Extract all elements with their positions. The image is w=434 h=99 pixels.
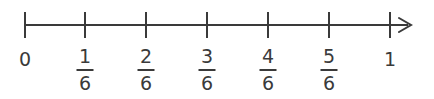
fraction-4-6-bar	[260, 69, 277, 71]
tick-label-2: 2 6	[138, 47, 155, 94]
fraction-2-6-denominator: 6	[138, 73, 155, 94]
fraction-3-6-numerator: 3	[199, 47, 216, 68]
fraction-4-6-numerator: 4	[260, 47, 277, 68]
fraction-1-6-denominator: 6	[77, 73, 94, 94]
tick-label-1: 1 6	[77, 47, 94, 94]
fraction-1-6: 1 6	[77, 47, 94, 94]
fraction-5-6-bar	[321, 69, 338, 71]
fraction-4-6: 4 6	[260, 47, 277, 94]
fraction-3-6-denominator: 6	[199, 73, 216, 94]
fraction-5-6-numerator: 5	[321, 47, 338, 68]
tick-label-4: 4 6	[260, 47, 277, 94]
fraction-3-6: 3 6	[199, 47, 216, 94]
fraction-3-6-bar	[199, 69, 216, 71]
tick-label-0: 0	[19, 50, 31, 69]
fraction-4-6-denominator: 6	[260, 73, 277, 94]
tick-label-3: 3 6	[199, 47, 216, 94]
fraction-2-6-numerator: 2	[138, 47, 155, 68]
tick-label-5: 5 6	[321, 47, 338, 94]
tick-label-6: 1	[384, 50, 396, 69]
fraction-2-6-bar	[138, 69, 155, 71]
number-line-figure: 0 1 6 2 6 3 6 4 6 5 6	[0, 0, 434, 99]
number-line-axis	[0, 0, 434, 99]
fraction-1-6-bar	[77, 69, 94, 71]
fraction-2-6: 2 6	[138, 47, 155, 94]
tick-label-0-text: 0	[19, 48, 31, 70]
fraction-1-6-numerator: 1	[77, 47, 94, 68]
fraction-5-6: 5 6	[321, 47, 338, 94]
fraction-5-6-denominator: 6	[321, 73, 338, 94]
tick-label-6-text: 1	[384, 48, 396, 70]
